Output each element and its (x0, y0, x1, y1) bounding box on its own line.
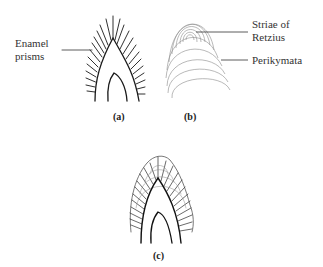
enamel-prisms-label-line1: Enamel (15, 37, 49, 50)
enamel-prisms-label-line2: prisms (15, 50, 49, 63)
striae-label-line1: Striae of (252, 18, 290, 31)
panel-b-striae-drawing (166, 24, 248, 98)
panel-a-caption: (a) (113, 111, 125, 122)
panel-a-tooth-drawing (62, 16, 145, 101)
panel-c-caption: (c) (153, 250, 164, 261)
enamel-prisms-label: Enamel prisms (15, 37, 49, 63)
striae-label-line2: Retzius (252, 31, 290, 44)
striae-of-retzius-label: Striae of Retzius (252, 18, 290, 44)
perikymata-label: Perikymata (252, 54, 302, 67)
panel-c-tooth-drawing (130, 156, 193, 243)
panel-b-caption: (b) (184, 111, 196, 122)
